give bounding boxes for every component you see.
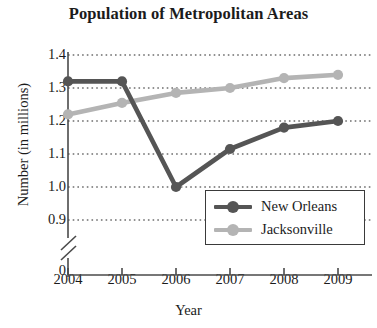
data-point: [279, 123, 289, 133]
data-point: [171, 88, 181, 98]
data-point: [225, 144, 235, 154]
legend-label-jacksonville: Jacksonville: [252, 221, 333, 238]
data-point: [117, 98, 127, 108]
chart-plot-area: [0, 0, 377, 328]
data-point: [171, 182, 181, 192]
legend-label-new-orleans: New Orleans: [252, 198, 337, 215]
series-line-new-orleans: [68, 81, 338, 187]
data-point: [333, 116, 343, 126]
legend-item-new-orleans: New Orleans: [214, 195, 358, 218]
legend-item-jacksonville: Jacksonville: [214, 218, 358, 241]
legend-swatch-new-orleans: [214, 201, 252, 213]
data-point: [225, 83, 235, 93]
data-point: [117, 76, 127, 86]
data-point: [63, 109, 73, 119]
legend-swatch-jacksonville: [214, 224, 252, 236]
data-point: [63, 76, 73, 86]
data-point: [333, 70, 343, 80]
data-point: [279, 73, 289, 83]
chart-container: Population of Metropolitan Areas Number …: [0, 0, 377, 328]
chart-legend: New Orleans Jacksonville: [205, 190, 365, 245]
series-markers-new-orleans: [63, 76, 343, 192]
